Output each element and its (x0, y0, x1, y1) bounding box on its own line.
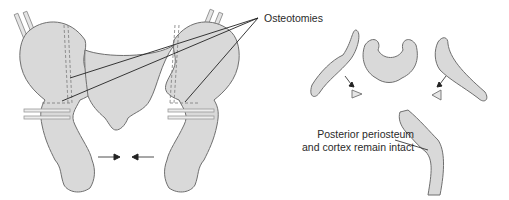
osteotomies-label: Osteotomies (264, 12, 323, 25)
axial-section-panel (311, 30, 487, 101)
wedge-right-icon (432, 90, 441, 100)
wedge-left-icon (352, 90, 362, 98)
pelvic-osteotomy-diagram (0, 0, 509, 200)
anterior-view-panel (14, 9, 258, 192)
posterior-periosteum-label: Posterior periosteum and cortex remain i… (302, 128, 414, 154)
right-hemipelvis (165, 22, 240, 192)
compression-arrows (98, 154, 154, 160)
posterior-label-line-1: Posterior periosteum (302, 128, 414, 141)
posterior-label-line-2: and cortex remain intact (302, 141, 414, 154)
right-ilium-section (435, 38, 487, 101)
sacrum (85, 45, 174, 130)
sacrum-section (363, 40, 417, 83)
left-hemipelvis (20, 22, 95, 192)
